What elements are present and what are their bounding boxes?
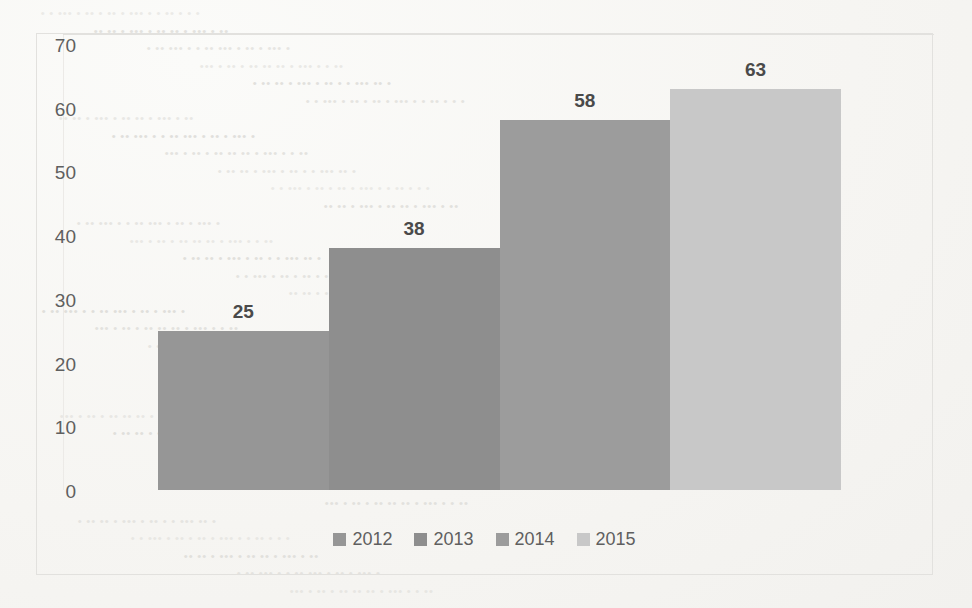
- y-axis-tick-30: 30: [30, 290, 76, 312]
- bar-2014: 58: [500, 120, 671, 490]
- bleedthrough-line: • • • •• • • ••• • •• • •• • ••• • •: [40, 6, 200, 22]
- chart-legend: 2012201320142015: [37, 529, 932, 550]
- bar-value-label-2013: 38: [329, 218, 500, 240]
- bar-value-label-2014: 58: [500, 90, 671, 112]
- legend-item-2014[interactable]: 2014: [496, 529, 555, 550]
- legend-swatch-icon: [496, 533, 509, 546]
- x-axis-baseline: [63, 34, 934, 35]
- bar-chart: 010203040506070 25385863 201220132014201…: [36, 33, 933, 575]
- legend-swatch-icon: [577, 533, 590, 546]
- plot-area: 010203040506070 25385863: [37, 34, 932, 574]
- legend-label: 2015: [596, 529, 636, 550]
- legend-item-2015[interactable]: 2015: [577, 529, 636, 550]
- y-axis-tick-20: 20: [30, 354, 76, 376]
- bar-value-label-2012: 25: [158, 301, 329, 323]
- y-axis-tick-40: 40: [30, 226, 76, 248]
- legend-label: 2012: [352, 529, 392, 550]
- y-axis-tick-10: 10: [30, 417, 76, 439]
- legend-swatch-icon: [333, 533, 346, 546]
- y-axis-tick-0: 0: [30, 481, 76, 503]
- bleedthrough-line: •• • • ••• • •• •• •• • •• • •••: [289, 584, 433, 600]
- bar-2013: 38: [329, 248, 500, 490]
- scanned-page-background: • • • •• • • ••• • •• • •• • ••• • ••• •…: [0, 0, 972, 608]
- legend-label: 2014: [515, 529, 555, 550]
- bar-2015: 63: [670, 89, 841, 490]
- y-axis-tick-50: 50: [30, 162, 76, 184]
- legend-item-2012[interactable]: 2012: [333, 529, 392, 550]
- y-axis-tick-70: 70: [30, 35, 76, 57]
- y-axis-tick-60: 60: [30, 99, 76, 121]
- legend-label: 2013: [433, 529, 473, 550]
- bar-value-label-2015: 63: [670, 59, 841, 81]
- legend-swatch-icon: [414, 533, 427, 546]
- bar-2012: 25: [158, 331, 329, 490]
- legend-item-2013[interactable]: 2013: [414, 529, 473, 550]
